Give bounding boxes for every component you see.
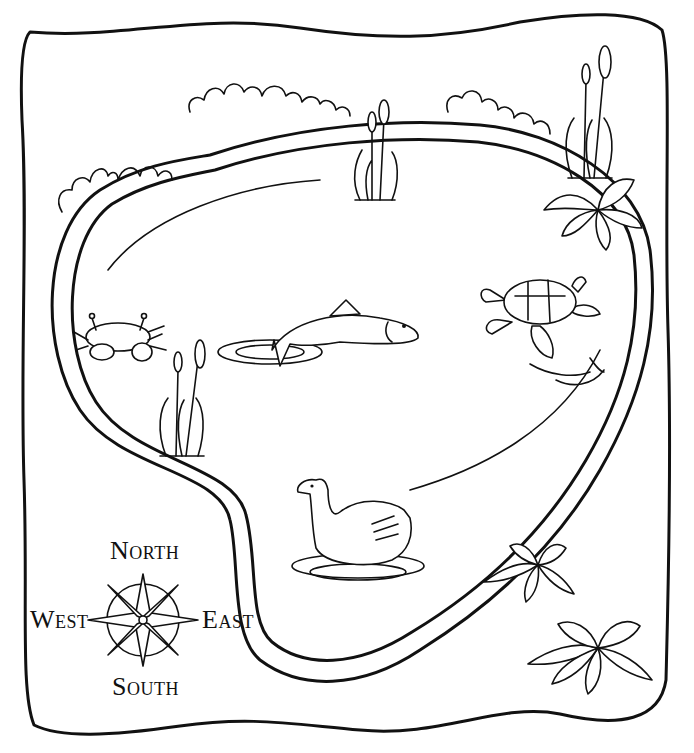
compass-label-east: EAST	[202, 605, 254, 635]
swan	[292, 479, 424, 580]
ripple-top	[108, 180, 320, 270]
compass-label-west: WEST	[30, 605, 89, 635]
bush-left	[59, 167, 172, 212]
cattail-left	[160, 340, 205, 456]
cattail-top-right	[566, 46, 612, 178]
map-drawing	[0, 0, 694, 753]
plant-upper-right	[544, 179, 642, 250]
pond-map: NORTH SOUTH EAST WEST	[0, 0, 694, 753]
ripple-right	[410, 350, 600, 490]
crab	[74, 314, 166, 362]
compass-label-south: SOUTH	[112, 672, 179, 702]
fish	[218, 300, 418, 366]
cattail-top-center	[355, 100, 398, 200]
compass-rose	[88, 574, 198, 666]
plant-bottom-right	[528, 622, 652, 694]
sea-turtle	[481, 277, 604, 385]
compass-label-north: NORTH	[110, 536, 179, 566]
bush-center	[189, 84, 350, 116]
